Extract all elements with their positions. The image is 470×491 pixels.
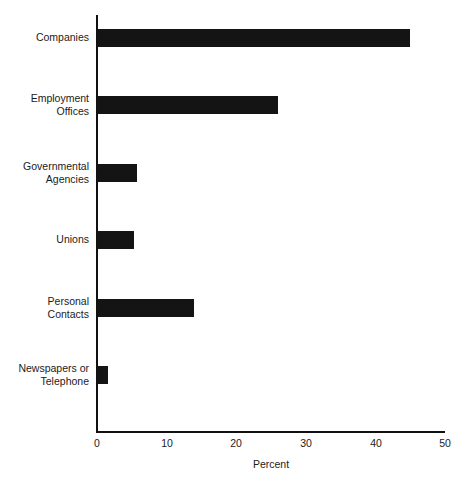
bar-employment-offices: [97, 96, 278, 114]
category-label-newspapers-telephone: Newspapers or Telephone: [0, 362, 89, 387]
bar-newspapers-telephone: [97, 366, 108, 384]
bar-companies: [97, 29, 410, 47]
bar-unions: [97, 231, 134, 249]
category-label-governmental-agencies: Governmental Agencies: [0, 160, 89, 185]
category-label-employment-offices: Employment Offices: [0, 92, 89, 117]
category-label-companies: Companies: [0, 31, 89, 44]
x-axis-title: Percent: [97, 458, 445, 471]
x-tick-40: 40: [356, 437, 396, 450]
plot-area: [97, 15, 445, 432]
x-tick-20: 20: [216, 437, 256, 450]
bar-personal-contacts: [97, 299, 194, 317]
x-tick-0: 0: [77, 437, 117, 450]
bar-chart: Companies Employment Offices Governmenta…: [0, 0, 470, 491]
x-tick-50: 50: [425, 437, 465, 450]
category-label-personal-contacts: Personal Contacts: [0, 295, 89, 320]
bar-governmental-agencies: [97, 164, 137, 182]
x-tick-30: 30: [286, 437, 326, 450]
category-label-unions: Unions: [0, 233, 89, 246]
x-tick-10: 10: [147, 437, 187, 450]
